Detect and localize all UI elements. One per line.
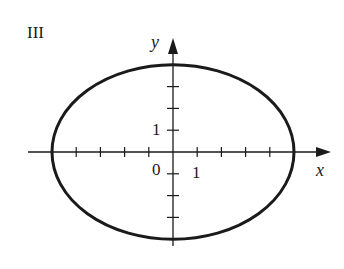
x-axis-arrow-icon (316, 147, 331, 157)
y-axis-arrow-icon (168, 38, 178, 54)
x-axis: x 1 (28, 147, 331, 182)
origin-label: 0 (152, 160, 161, 179)
panel-label: III (27, 23, 44, 42)
y-unit-label: 1 (152, 120, 161, 139)
x-unit-label: 1 (192, 163, 201, 182)
y-axis-label: y (149, 32, 159, 52)
x-axis-label: x (315, 160, 324, 180)
ellipse-diagram: III x 1 y 1 0 (0, 0, 344, 269)
